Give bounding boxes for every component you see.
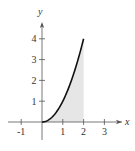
x-tick-label: 3 [102, 126, 107, 137]
x-tick-label: 2 [81, 126, 86, 137]
x-tick-label: -1 [17, 126, 25, 137]
y-axis-label: y [37, 6, 43, 17]
shaded-region [42, 39, 84, 122]
y-tick-label: 1 [32, 96, 37, 107]
chart: -1123 1234 x y [0, 0, 135, 151]
x-tick-label: 1 [60, 126, 65, 137]
y-tick-label: 4 [32, 33, 37, 44]
x-axis-label: x [124, 116, 130, 127]
shaded-area [42, 39, 84, 122]
y-tick-label: 2 [32, 75, 37, 86]
x-axis: -1123 [8, 119, 122, 137]
y-tick-label: 3 [32, 54, 37, 65]
